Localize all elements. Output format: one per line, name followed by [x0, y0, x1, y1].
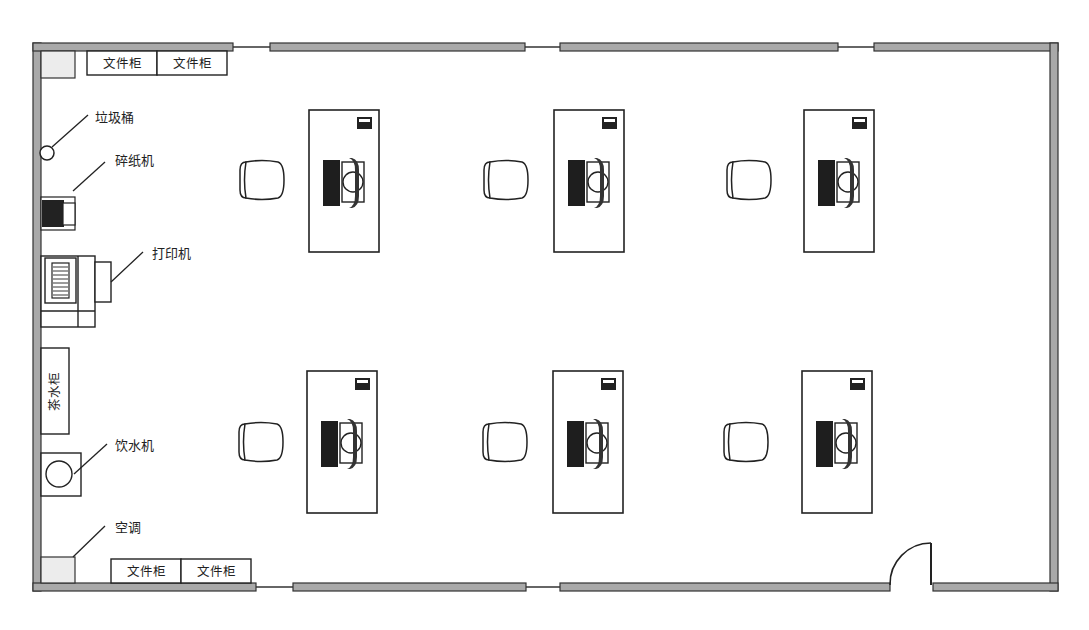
workstation-desk[interactable] — [804, 110, 874, 252]
water-dispenser-label: 饮水机 — [115, 438, 154, 453]
tea-cabinet[interactable]: 茶水柜 — [41, 348, 69, 434]
shredder-label: 碎纸机 — [115, 153, 154, 168]
tea-cabinet-label: 茶水柜 — [47, 372, 62, 411]
file-cabinet-label: 文件柜 — [173, 56, 212, 71]
file-cabinet-label: 文件柜 — [127, 564, 166, 579]
file-cabinet-label: 文件柜 — [197, 564, 236, 579]
file-cabinets-top[interactable]: 文件柜 文件柜 — [87, 51, 227, 75]
chair[interactable] — [483, 423, 527, 462]
water-dispenser[interactable]: 饮水机 — [41, 438, 154, 496]
chair[interactable] — [724, 423, 768, 462]
walls — [33, 43, 1058, 591]
workstations — [239, 110, 874, 513]
trash-bin-label: 垃圾桶 — [95, 110, 134, 125]
workstation-desk[interactable] — [554, 110, 624, 252]
workstation-desk[interactable] — [307, 371, 377, 513]
air-conditioner-top — [41, 51, 75, 78]
chair[interactable] — [240, 161, 284, 200]
workstation-desk[interactable] — [553, 371, 623, 513]
printer[interactable]: 打印机 — [41, 246, 191, 327]
workstation-desk[interactable] — [802, 371, 872, 513]
file-cabinets-bottom[interactable]: 文件柜 文件柜 — [111, 559, 251, 583]
chair[interactable] — [484, 161, 528, 200]
file-cabinet-label: 文件柜 — [103, 56, 142, 71]
workstation-desk[interactable] — [309, 110, 379, 252]
chair[interactable] — [727, 161, 771, 200]
air-conditioner-label: 空调 — [115, 520, 141, 535]
shredder[interactable]: 碎纸机 — [41, 153, 154, 230]
chair[interactable] — [239, 423, 283, 462]
printer-label: 打印机 — [152, 246, 191, 261]
door[interactable] — [890, 543, 931, 585]
office-floor-plan: 文件柜 文件柜 垃圾桶 碎纸机 打印机 茶水柜 — [0, 0, 1089, 630]
